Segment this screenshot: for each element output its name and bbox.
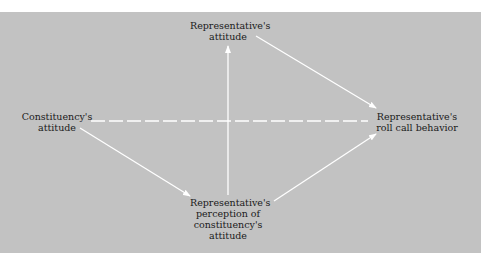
node-label-line: Representative's	[190, 20, 266, 31]
node-label-line: Representative's	[374, 111, 460, 122]
node-label-line: attitude	[190, 230, 266, 241]
node-representative-attitude: Representative's attitude	[190, 20, 266, 42]
arrow-rep-attitude-to-rollcall	[256, 36, 376, 108]
node-label-line: attitude	[20, 122, 94, 133]
node-perception-of-constituency: Representative's perception of constitue…	[190, 197, 266, 241]
node-label-line: Constituency's	[20, 111, 94, 122]
node-label-line: attitude	[190, 31, 266, 42]
arrow-perception-to-rollcall	[274, 134, 376, 201]
node-label-line: constituency's	[190, 219, 266, 230]
node-label-line: Representative's	[190, 197, 266, 208]
arrow-constituency-to-perception	[80, 128, 190, 196]
node-label-line: perception of	[190, 208, 266, 219]
node-label-line: roll call behavior	[374, 122, 460, 133]
node-roll-call-behavior: Representative's roll call behavior	[374, 111, 460, 133]
node-constituency-attitude: Constituency's attitude	[20, 111, 94, 133]
